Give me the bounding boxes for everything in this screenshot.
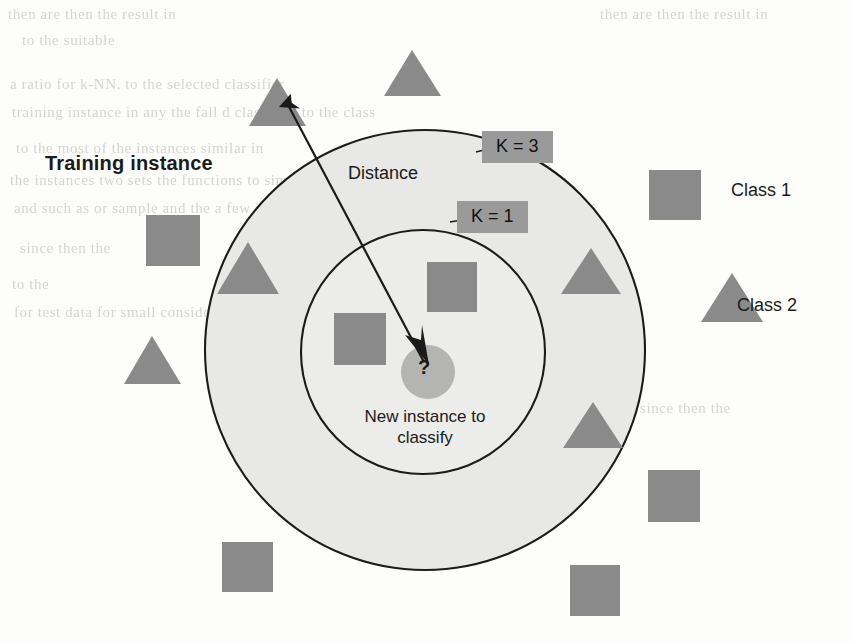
training-square (649, 170, 701, 220)
legend-class2-label: Class 2 (737, 295, 797, 316)
scanned-page: then are then the result in to the suita… (0, 0, 851, 642)
training-square (146, 215, 200, 266)
training-square (570, 565, 620, 616)
inner-square (427, 262, 477, 312)
training-triangle (249, 78, 306, 126)
inner-square (334, 313, 386, 365)
training-square (648, 470, 700, 522)
training-square (222, 542, 273, 592)
k1-label: K = 1 (457, 201, 528, 233)
knn-diagram (0, 0, 851, 642)
new-instance-label: New instance to classify (351, 406, 499, 448)
legend-class1-label: Class 1 (731, 180, 791, 201)
training-triangle (384, 50, 441, 96)
training-triangle (124, 336, 181, 384)
training-instance-label: Training instance (45, 152, 213, 175)
query-marker-label: ? (418, 356, 430, 379)
k3-label: K = 3 (482, 131, 553, 163)
distance-label: Distance (348, 163, 418, 184)
